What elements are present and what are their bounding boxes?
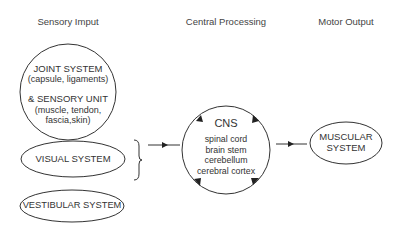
- muscular-line-1: MUSCULAR: [310, 131, 382, 142]
- header-central-processing: Central Processing: [176, 16, 276, 27]
- cns-item: cerebral cortex: [186, 166, 266, 177]
- cns-text: CNS spinal cord brain stem cerebellum ce…: [186, 117, 266, 176]
- muscular-system-text: MUSCULAR SYSTEM: [310, 131, 382, 154]
- header-motor-output: Motor Output: [296, 16, 396, 27]
- muscular-line-2: SYSTEM: [310, 142, 382, 153]
- cns-title: CNS: [186, 117, 266, 130]
- joint-line-3: & SENSORY UNIT: [18, 93, 118, 104]
- visual-system-label: VISUAL SYSTEM: [23, 153, 123, 164]
- joint-line-5: fascia,skin): [18, 115, 118, 126]
- vestibular-system-label: VESTIBULAR SYSTEM: [20, 200, 124, 211]
- cycle-arrow-icon: [194, 178, 201, 186]
- grouping-brace: [134, 140, 142, 180]
- joint-line-1: JOINT SYSTEM: [18, 63, 118, 74]
- cns-item: brain stem: [186, 145, 266, 156]
- header-sensory-input: Sensory Imput: [18, 16, 118, 27]
- joint-line-2: (capsule, ligaments): [18, 74, 118, 85]
- joint-line-4: (muscle, tendon,: [18, 105, 118, 116]
- cns-item: cerebellum: [186, 155, 266, 166]
- cns-item: spinal cord: [186, 134, 266, 145]
- joint-system-text: JOINT SYSTEM (capsule, ligaments) & SENS…: [18, 63, 118, 126]
- cycle-arrow-icon: [251, 178, 259, 185]
